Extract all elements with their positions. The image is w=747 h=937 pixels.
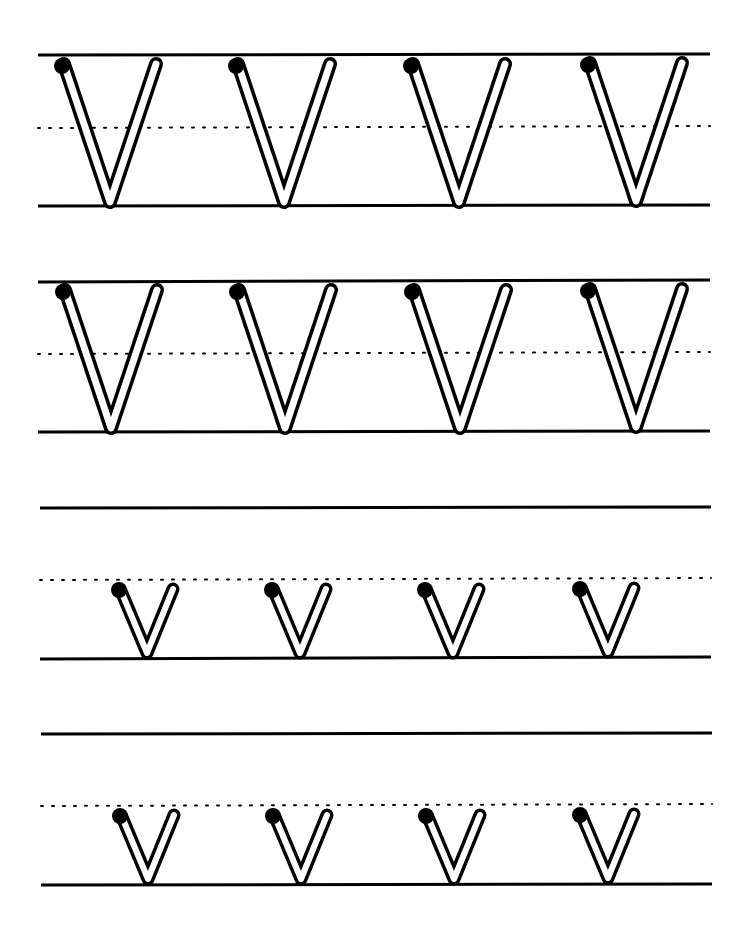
practice-row-1: [38, 54, 710, 206]
handwriting-worksheet: [0, 0, 747, 937]
practice-row-2: [38, 280, 710, 432]
practice-row-3: [40, 507, 711, 659]
practice-row-4: [41, 733, 712, 885]
